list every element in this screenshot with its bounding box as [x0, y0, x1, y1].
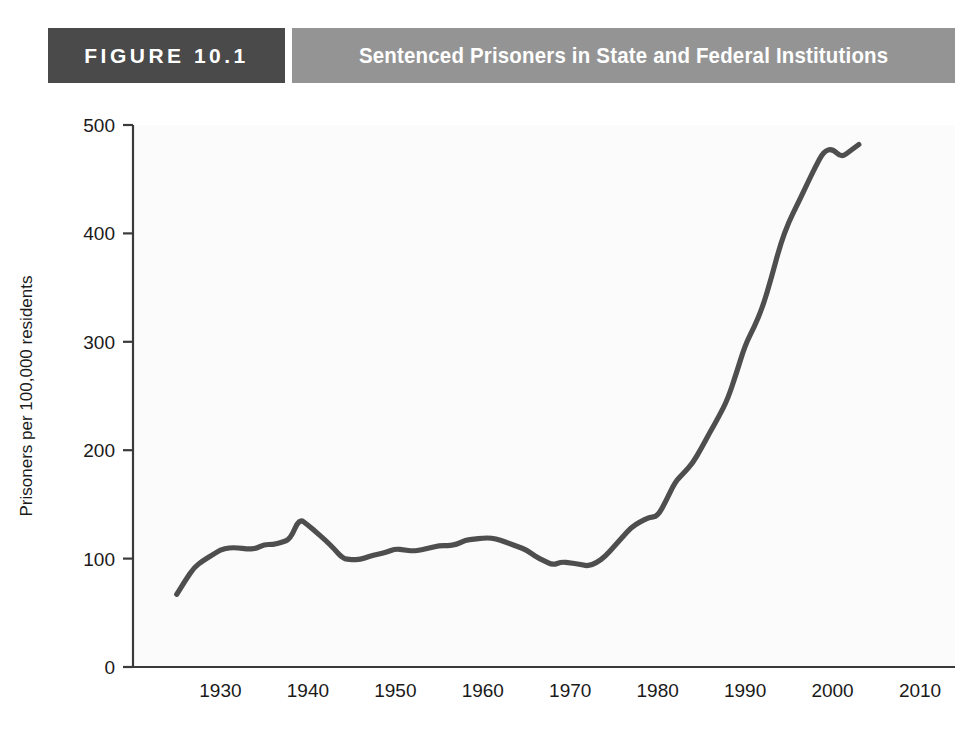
- x-axis-ticks: 193019401950196019701980199020002010: [199, 680, 941, 700]
- figure-number-label: FIGURE 10.1: [84, 44, 249, 68]
- y-tick-label: 200: [83, 440, 115, 461]
- y-tick-label: 0: [104, 657, 115, 678]
- x-tick-label: 1940: [287, 680, 329, 700]
- figure-title-label: Sentenced Prisoners in State and Federal…: [359, 43, 888, 69]
- y-tick-label: 100: [83, 549, 115, 570]
- x-tick-label: 1930: [199, 680, 241, 700]
- y-axis-ticks: 0100200300400500: [83, 115, 133, 678]
- x-tick-label: 1980: [637, 680, 679, 700]
- line-chart: Prisoners per 100,000 residents 01002003…: [0, 90, 979, 700]
- y-axis-title: Prisoners per 100,000 residents: [17, 276, 36, 517]
- figure-title-block: Sentenced Prisoners in State and Federal…: [292, 28, 955, 83]
- y-tick-label: 500: [83, 115, 115, 136]
- figure-root: FIGURE 10.1 Sentenced Prisoners in State…: [0, 0, 979, 735]
- figure-number-block: FIGURE 10.1: [48, 28, 285, 83]
- x-tick-label: 1970: [549, 680, 591, 700]
- plot-background: [133, 125, 955, 667]
- x-tick-label: 1990: [724, 680, 766, 700]
- chart-area: Prisoners per 100,000 residents 01002003…: [0, 90, 979, 700]
- x-tick-label: 1960: [462, 680, 504, 700]
- x-tick-label: 2000: [811, 680, 853, 700]
- y-tick-label: 400: [83, 223, 115, 244]
- y-tick-label: 300: [83, 332, 115, 353]
- source-caption: [40, 712, 940, 728]
- x-tick-label: 2010: [899, 680, 941, 700]
- x-tick-label: 1950: [374, 680, 416, 700]
